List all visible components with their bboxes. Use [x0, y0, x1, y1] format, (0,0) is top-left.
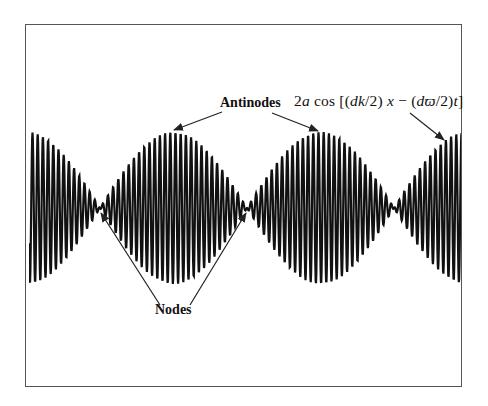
- arrow-antinode-left: [174, 112, 222, 130]
- envelope-formula: 2a cos [(dk/2) x − (dϖ/2)t]: [294, 92, 463, 110]
- antinodes-label: Antinodes: [220, 95, 281, 111]
- modulated-wave: [29, 132, 462, 284]
- formula-minus: − (: [394, 92, 416, 109]
- formula-coef: 2: [294, 92, 302, 109]
- arrow-formula: [410, 113, 444, 140]
- arrow-antinode-right: [272, 113, 318, 131]
- formula-close: ]: [458, 92, 463, 109]
- formula-open: [(: [339, 92, 350, 109]
- formula-a: a: [302, 92, 310, 109]
- formula-dk: dk: [350, 92, 365, 109]
- nodes-label: Nodes: [155, 302, 192, 318]
- formula-dw: dϖ: [417, 92, 436, 109]
- formula-cos: cos: [314, 92, 335, 109]
- beat-wave-plot: [0, 0, 488, 406]
- formula-mid2: /2): [436, 92, 454, 109]
- formula-mid1: /2): [365, 92, 383, 109]
